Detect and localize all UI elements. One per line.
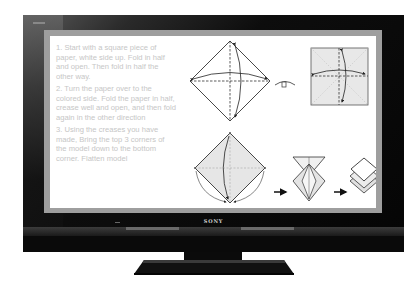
tv-screen: 1. Start with a square piece of paper, w… <box>50 36 376 208</box>
step1-diamond-diagram <box>190 41 270 121</box>
bezel-bottom <box>23 236 404 252</box>
strip-highlight-right <box>241 227 294 230</box>
tv-screen-border: 1. Start with a square piece of paper, w… <box>44 30 382 213</box>
origami-diagrams <box>50 36 376 208</box>
strip-highlight-left <box>126 227 179 230</box>
bezel-bottom-strip <box>23 227 404 236</box>
step2-square-diagram <box>311 48 368 105</box>
turn-over-icon <box>275 82 295 88</box>
step3-result-diagram <box>350 158 376 193</box>
bravia-logo <box>33 22 45 24</box>
tv-stand-base <box>134 258 294 276</box>
tv-bezel: 1. Start with a square piece of paper, w… <box>23 15 404 252</box>
sony-logo: SONY <box>23 218 404 224</box>
step3-diamond-diagram <box>194 132 266 203</box>
step3-collapsing-diagram <box>293 157 325 201</box>
